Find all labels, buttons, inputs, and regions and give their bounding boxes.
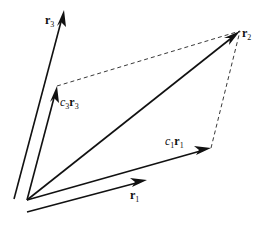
label-c1r1: c1r1: [165, 134, 184, 150]
arrowhead-icon: [194, 146, 211, 155]
vector-diagram: r3 r2 c3r3 c1r1 r1: [0, 0, 264, 227]
vector-c3r3: [27, 86, 59, 200]
label-r1: r1: [130, 188, 139, 204]
label-c3r3: c3r3: [60, 95, 79, 111]
arrowhead-icon: [57, 10, 66, 27]
label-r3: r3: [45, 13, 54, 29]
dashed-edge-c1r1-to-r2: [211, 31, 240, 148]
arrowhead-icon: [50, 86, 59, 103]
dashed-edge-c3r3-to-r2: [57, 31, 240, 86]
vector-c1r1: [27, 146, 211, 200]
vector-r2: [27, 31, 240, 200]
label-r2: r2: [242, 26, 251, 42]
arrowhead-icon: [130, 178, 147, 187]
vector-r3: [14, 10, 66, 199]
